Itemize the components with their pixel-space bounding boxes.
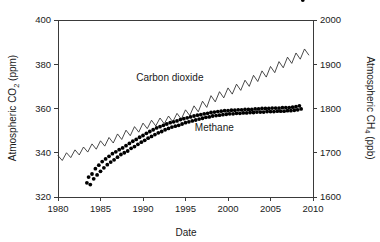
x-axis-title: Date [175,227,197,238]
ch4-data-point [131,139,135,143]
ch4-data-point [296,108,300,112]
ch4-data-point [270,106,274,110]
ch4-data-point [231,112,235,116]
ch4-data-point [121,146,125,150]
ch4-data-point [160,130,164,134]
ch4-data-point [95,173,99,177]
left-tick-label: 400 [35,14,51,25]
ch4-data-point [173,124,177,128]
ch4-data-point [201,116,205,120]
dual-axis-timeseries-chart: 320340360380400 16001700180019002000 198… [0,0,380,242]
ch4-data-point [85,181,89,185]
ch4-data-point [126,149,130,153]
ch4-data-point [241,111,245,115]
ch4-data-point [88,183,92,187]
ch4-data-point [243,107,247,111]
ch4-data-point [145,131,149,135]
ch4-data-point [292,108,296,112]
ch4-data-point [133,145,137,149]
ch4-data-point [252,111,256,115]
ch4-data-point [218,113,222,117]
right-tick-label: 1800 [320,103,341,114]
x-tick-label: 2005 [260,203,281,214]
ch4-data-point [138,135,142,139]
ch4-data-point [236,108,240,112]
ch4-data-point [153,133,157,137]
ch4-data-point [151,128,155,132]
ch4-data-point [148,130,152,134]
ch4-data-point [269,110,273,114]
right-tick-label: 1600 [320,191,341,202]
ch4-data-point [190,119,194,123]
ch4-data-point [216,110,220,114]
ch4-data-point [119,153,123,157]
x-tick-label: 1990 [132,203,153,214]
ch4-data-point [245,111,249,115]
left-tick-label: 380 [35,59,51,70]
ch4-data-point [206,111,210,115]
ch4-data-point [279,109,283,113]
ch4-data-point [127,142,131,146]
left-tick-label: 340 [35,147,51,158]
x-tick-label: 1995 [175,203,196,214]
ch4-data-point [146,136,150,140]
ch4-data-point [221,113,225,117]
ch4-data-point [117,148,121,152]
ch4-data-point [104,157,108,161]
ch4-data-point [124,144,128,148]
ch4-data-point [114,150,118,154]
ch4-data-point [100,160,104,164]
ch4-data-point [92,177,96,181]
ch4-data-point [204,115,208,119]
ch4-data-point [111,152,115,156]
ch4-data-point [177,123,181,127]
ch4-data-point [163,128,167,132]
ch4-data-point [192,114,196,118]
ch4-data-point [214,114,218,118]
ch4-data-point [262,110,266,114]
ch4-data-point [209,111,213,115]
ch4-data-point [189,115,193,119]
ch4-data-point [122,151,126,155]
ch4-data-point [87,175,91,179]
co2-series-annotation: Carbon dioxide [136,72,204,83]
ch4-data-point [299,107,303,111]
ch4-data-point [211,114,215,118]
ch4-data-point [105,163,109,167]
chart-container: 320340360380400 16001700180019002000 198… [0,0,380,242]
ch4-data-point [90,172,94,176]
ch4-data-point [97,163,101,167]
ch4-data-point [281,106,285,110]
ch4-data-point [167,127,171,131]
ch4-data-point [112,158,116,162]
right-tick-label: 1700 [320,147,341,158]
ch4-data-point [207,115,211,119]
ch4-data-point [175,119,179,123]
ch4-data-point [238,111,242,115]
ch4-series-annotation: Methane [195,122,234,133]
ch4-data-point [213,110,217,114]
ch4-data-point [179,118,183,122]
ch4-data-point [202,112,206,116]
left-tick-label: 320 [35,191,51,202]
ch4-data-point [289,109,293,113]
ch4-data-point [162,123,166,127]
ch4-data-point [260,107,264,111]
left-tick-label: 360 [35,103,51,114]
y-right-title-pre: Atmospheric CH [365,56,376,129]
x-tick-label: 1985 [90,203,111,214]
y-left-title-pre: Atmospheric CO [7,88,18,162]
ch4-data-point [156,131,160,135]
ch4-data-point [129,146,133,150]
ch4-data-point [196,113,200,117]
ch4-data-point [99,169,103,173]
y-right-title-post: (ppb) [365,133,376,159]
ch4-data-point [224,112,228,116]
ch4-data-point [102,166,106,170]
ch4-data-point [141,134,145,138]
ch4-data-point [272,110,276,114]
ch4-data-point [94,167,98,171]
ch4-data-point [223,109,227,113]
ch4-data-point [182,117,186,121]
ch4-data-point [230,108,234,112]
